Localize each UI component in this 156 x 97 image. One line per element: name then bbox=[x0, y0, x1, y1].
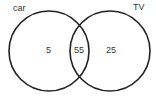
value-intersection: 55 bbox=[74, 46, 84, 55]
value-car-only: 5 bbox=[46, 46, 51, 55]
set-label-tv: TV bbox=[133, 3, 145, 12]
value-tv-only: 25 bbox=[106, 46, 116, 55]
set-label-car: car bbox=[13, 4, 26, 13]
